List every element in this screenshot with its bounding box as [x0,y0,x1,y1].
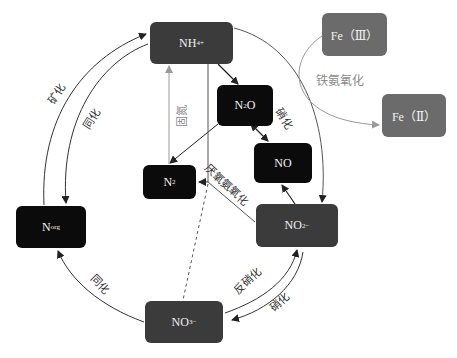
edge-no2-no [282,185,295,204]
node-no2: NO2− [256,204,338,247]
node-n2o: N2O [217,85,273,126]
node-nh4: NH4+ [150,22,233,64]
label-fixation: 固氮 [173,105,189,127]
node-no3: NO3− [145,301,223,343]
node-fe3: Fe（Ⅲ） [322,13,387,56]
edge-nh4-n2o [218,64,238,84]
edge-n2o-no [255,128,268,141]
node-no: NO [254,143,312,183]
node-n2: N2 [143,165,196,199]
label-feammox: 铁氨氧化 [316,71,364,88]
edge-dashed [183,184,208,300]
node-fe2: Fe（Ⅱ） [382,94,446,137]
edge-n2o-n2 [170,124,218,163]
node-norg: Norg [16,206,86,248]
edge-assimilation-top [65,44,148,203]
